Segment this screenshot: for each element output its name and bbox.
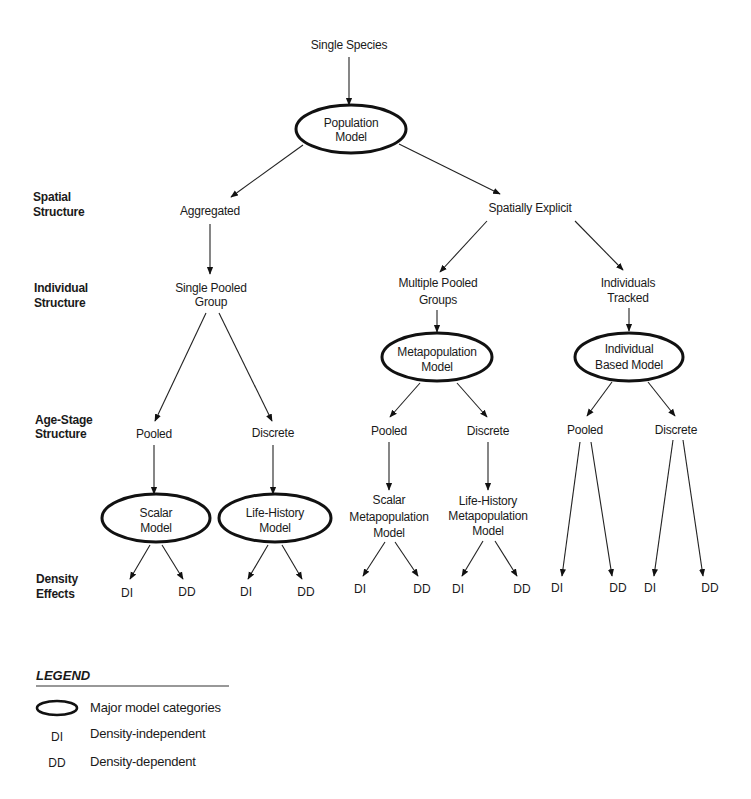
row-label-spatial-structure: Spatial Structure bbox=[33, 190, 85, 219]
leaf-scalar-meta-dd: DD bbox=[413, 582, 431, 596]
arrow-edge bbox=[363, 542, 385, 576]
row-label-line: Structure bbox=[34, 296, 86, 310]
row-label-line: Structure bbox=[35, 427, 87, 441]
arrow-edge bbox=[155, 313, 206, 421]
node-label-line: Life-History bbox=[246, 506, 304, 520]
node-aggregated: Aggregated bbox=[180, 204, 240, 218]
node-label-line: Individual bbox=[605, 342, 654, 356]
legend-title: LEGEND bbox=[36, 668, 91, 683]
leaf-scalar-dd: DD bbox=[178, 585, 196, 599]
node-metapopulation-pooled: Pooled bbox=[371, 424, 407, 438]
arrow-edge bbox=[231, 145, 303, 197]
node-multiple-pooled-groups: Multiple Pooled Groups bbox=[398, 276, 477, 307]
leaf-ibm-discrete-dd: DD bbox=[701, 581, 719, 595]
legend-item-symbol: DI bbox=[51, 730, 63, 744]
node-life-history-metapopulation-model: Life-History Metapopulation Model bbox=[448, 494, 527, 538]
node-label-line: Metapopulation bbox=[349, 510, 428, 524]
arrow-edge bbox=[591, 442, 612, 576]
leaf-scalar-meta-di: DI bbox=[354, 582, 366, 596]
arrow-edge bbox=[648, 382, 675, 416]
arrow-edge bbox=[399, 144, 500, 194]
legend-item-label: Major model categories bbox=[90, 700, 221, 715]
leaf-life-history-di: DI bbox=[240, 585, 252, 599]
arrow-edge bbox=[282, 545, 302, 579]
node-population-model: Population Model bbox=[296, 105, 406, 153]
node-label-line: Scalar bbox=[373, 493, 406, 507]
node-ibm-pooled: Pooled bbox=[567, 423, 603, 437]
row-label-line: Spatial bbox=[33, 190, 71, 204]
row-label-line: Effects bbox=[36, 587, 75, 601]
legend-item-label: Density-independent bbox=[90, 726, 206, 741]
node-label-line: Group bbox=[195, 295, 228, 309]
node-label-line: Model bbox=[140, 521, 172, 535]
node-ibm-discrete: Discrete bbox=[655, 423, 698, 437]
node-scalar-model: Scalar Model bbox=[102, 494, 210, 542]
row-label-age-stage-structure: Age-Stage Structure bbox=[35, 413, 93, 441]
node-label-line: Tracked bbox=[607, 291, 649, 305]
population-model-diagram: Spatial Structure Individual Structure A… bbox=[0, 0, 751, 799]
legend-item-label: Density-dependent bbox=[90, 754, 196, 769]
arrow-edge bbox=[462, 541, 483, 576]
node-individual-based-model: Individual Based Model bbox=[575, 333, 683, 381]
node-label-line: Multiple Pooled bbox=[398, 276, 477, 290]
node-label-line: Individuals bbox=[601, 276, 656, 290]
node-label-line: Model bbox=[335, 130, 367, 144]
arrow-edge bbox=[587, 382, 612, 416]
node-label-line: Population bbox=[324, 116, 379, 130]
node-metapopulation-model: Metapopulation Model bbox=[382, 333, 492, 381]
arrow-edge bbox=[248, 545, 268, 579]
leaf-life-history-dd: DD bbox=[297, 585, 315, 599]
arrow-edge bbox=[162, 545, 183, 579]
row-label-individual-structure: Individual Structure bbox=[34, 281, 88, 310]
arrow-edge bbox=[390, 383, 420, 417]
leaf-ibm-pooled-di: DI bbox=[551, 581, 563, 595]
arrow-edge bbox=[219, 313, 272, 421]
node-label-line: Single Pooled bbox=[175, 281, 246, 295]
leaf-ibm-discrete-di: DI bbox=[644, 581, 656, 595]
major-category-ellipse bbox=[575, 333, 683, 381]
ellipse-icon bbox=[37, 701, 77, 715]
node-label-line: Based Model bbox=[595, 358, 663, 372]
arrow-edge bbox=[562, 442, 580, 576]
arrow-edge bbox=[395, 542, 418, 576]
node-label-line: Model bbox=[259, 521, 291, 535]
node-single-species: Single Species bbox=[311, 38, 388, 52]
legend-item-symbol: DD bbox=[48, 756, 66, 770]
row-label-density-effects: Density Effects bbox=[36, 572, 78, 601]
node-label-line: Groups bbox=[419, 293, 457, 307]
node-aggregated-pooled: Pooled bbox=[136, 427, 172, 441]
arrow-edge bbox=[457, 383, 487, 417]
node-life-history-model: Life-History Model bbox=[219, 494, 331, 542]
node-spatially-explicit: Spatially Explicit bbox=[488, 201, 572, 215]
node-label-line: Scalar bbox=[140, 506, 173, 520]
node-label-line: Life-History bbox=[459, 494, 517, 508]
node-scalar-metapopulation-model: Scalar Metapopulation Model bbox=[349, 493, 428, 540]
node-metapopulation-discrete: Discrete bbox=[467, 424, 510, 438]
row-label-line: Structure bbox=[33, 205, 85, 219]
leaf-ibm-pooled-dd: DD bbox=[609, 581, 627, 595]
arrow-edge bbox=[654, 440, 673, 576]
node-label-line: Model bbox=[421, 360, 453, 374]
node-label-line: Model bbox=[472, 524, 504, 538]
row-label-line: Individual bbox=[34, 281, 88, 295]
arrow-edge bbox=[575, 221, 623, 270]
node-label-line: Model bbox=[373, 526, 405, 540]
legend: LEGEND Major model categories DI Density… bbox=[36, 668, 229, 770]
leaf-life-history-meta-di: DI bbox=[452, 582, 464, 596]
row-label-line: Density bbox=[36, 572, 78, 586]
node-label-line: Metapopulation bbox=[397, 345, 476, 359]
node-single-pooled-group: Single Pooled Group bbox=[175, 281, 246, 309]
node-individuals-tracked: Individuals Tracked bbox=[601, 276, 656, 305]
arrow-edge bbox=[440, 221, 487, 272]
arrow-edge bbox=[495, 541, 517, 576]
arrow-edge bbox=[683, 440, 703, 576]
row-label-line: Age-Stage bbox=[35, 413, 93, 427]
arrow-edge bbox=[130, 545, 150, 579]
leaf-life-history-meta-dd: DD bbox=[513, 582, 531, 596]
leaf-scalar-di: DI bbox=[121, 586, 133, 600]
node-label-line: Metapopulation bbox=[448, 509, 527, 523]
node-aggregated-discrete: Discrete bbox=[252, 426, 295, 440]
